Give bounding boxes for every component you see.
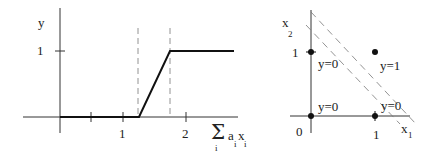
label-point-0-1: y=0 (318, 56, 338, 71)
origin-label: 0 (296, 124, 303, 139)
x2-label: x (282, 15, 289, 30)
x-tick-label-2: 2 (182, 126, 189, 141)
activation-curve (60, 51, 234, 117)
point-0-0 (308, 113, 314, 119)
x1-label: x (401, 121, 408, 136)
label-point-1-0: y=0 (381, 98, 401, 113)
y-tick-label: 1 (37, 43, 44, 58)
x-label-a-sub: i (234, 139, 237, 149)
label-point-0-0: y=0 (318, 99, 338, 114)
x2-tick-label: 1 (292, 45, 299, 60)
left-plot: y 1 1 2 Σ i a i x i (23, 8, 247, 153)
x1-label-sub: 1 (408, 130, 413, 140)
x-label-x-sub: i (244, 139, 247, 149)
sum-symbol: Σ (211, 120, 225, 144)
x2-label-sub: 2 (288, 29, 293, 39)
sum-index: i (215, 143, 218, 153)
point-1-1 (372, 49, 378, 55)
x1-tick-label: 1 (373, 127, 380, 142)
right-plot: x 2 1 0 1 x 1 y=0 y=0 y=0 y=1 (282, 10, 416, 142)
label-point-1-1: y=1 (380, 58, 400, 73)
diagram-canvas: y 1 1 2 Σ i a i x i x 2 1 0 1 x 1 y=0 y=… (0, 0, 437, 156)
y-label: y (38, 15, 45, 30)
x-tick-label-1: 1 (119, 126, 126, 141)
